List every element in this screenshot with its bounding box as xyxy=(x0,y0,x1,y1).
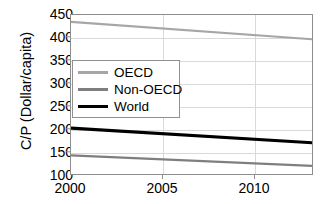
legend-label-non-oecd: Non-OECD xyxy=(114,83,182,97)
x-axis-tick-label: 2005 xyxy=(132,180,192,196)
legend-swatch-non-oecd xyxy=(78,88,108,90)
y-axis-title: C/P (Dollar/capita) xyxy=(18,1,34,181)
legend-swatch-oecd xyxy=(78,71,108,73)
line-chart: C/P (Dollar/capita) 450 400 350 300 250 … xyxy=(0,0,325,204)
x-axis-tick-label: 2000 xyxy=(40,180,100,196)
legend: OECD Non-OECD World xyxy=(72,60,180,118)
legend-label-world: World xyxy=(114,100,149,114)
legend-item-world: World xyxy=(78,98,175,115)
x-axis-tick-mark xyxy=(254,175,255,179)
series-line-oecd xyxy=(71,22,313,39)
x-axis-tick-mark xyxy=(162,175,163,179)
legend-item-non-oecd: Non-OECD xyxy=(78,81,175,98)
legend-swatch-world xyxy=(78,105,108,108)
legend-item-oecd: OECD xyxy=(78,64,175,81)
x-axis-tick-label: 2010 xyxy=(224,180,284,196)
legend-label-oecd: OECD xyxy=(114,66,153,80)
series-line-world xyxy=(71,128,313,143)
y-axis-tick-label: 450 xyxy=(33,7,73,21)
series-line-non-oecd xyxy=(71,155,313,166)
